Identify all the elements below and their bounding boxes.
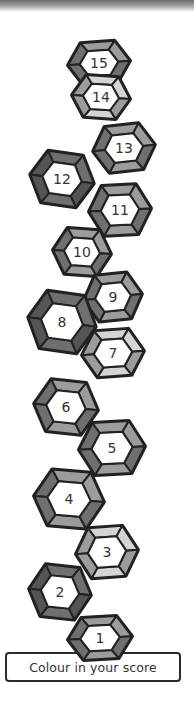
gem-1[interactable]: 1 xyxy=(63,611,138,665)
gem-number: 1 xyxy=(64,613,136,663)
gem-14[interactable]: 14 xyxy=(66,70,135,124)
top-edge-shadow xyxy=(0,0,194,12)
gem-number: 4 xyxy=(30,467,108,531)
gem-number: 14 xyxy=(68,72,134,122)
gem-7[interactable]: 7 xyxy=(76,324,150,383)
gem-number: 7 xyxy=(78,326,148,380)
